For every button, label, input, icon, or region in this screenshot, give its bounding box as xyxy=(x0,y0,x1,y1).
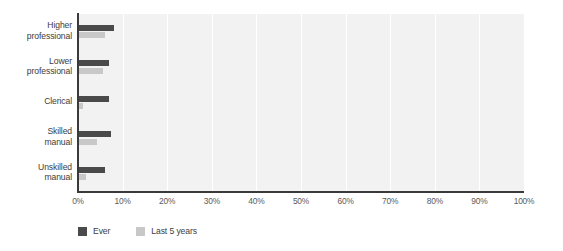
bar-ever[interactable] xyxy=(78,60,109,66)
plot-area xyxy=(78,14,524,191)
x-axis-tick-label: 20% xyxy=(159,196,175,207)
x-axis-tick-label: 60% xyxy=(338,196,354,207)
y-axis-label-skilled-manual: Skilledmanual xyxy=(0,126,72,147)
legend-label: Ever xyxy=(93,226,110,236)
y-axis-label-line: Clerical xyxy=(0,96,72,107)
y-axis-label-line: Lower xyxy=(0,56,72,67)
legend-item-ever[interactable]: Ever xyxy=(78,226,110,236)
x-axis-tick-label: 90% xyxy=(471,196,487,207)
x-axis-tick-labels: 0%10%20%30%40%50%60%70%80%90%100% xyxy=(0,196,563,210)
y-axis-line xyxy=(77,13,79,192)
bar-last-5-years[interactable] xyxy=(78,68,103,74)
x-axis-tick-label: 80% xyxy=(427,196,443,207)
bar-ever[interactable] xyxy=(78,167,105,173)
x-axis-tick-label: 30% xyxy=(204,196,220,207)
bar-last-5-years[interactable] xyxy=(78,139,97,145)
y-axis-label-unskilled-manual: Unskilledmanual xyxy=(0,162,72,183)
bar-group xyxy=(78,156,524,191)
bar-last-5-years[interactable] xyxy=(78,174,86,180)
bar-last-5-years[interactable] xyxy=(78,32,105,38)
bar-group xyxy=(78,85,524,120)
y-axis-label-line: professional xyxy=(0,66,72,77)
x-axis-tick-label: 10% xyxy=(115,196,131,207)
bar-group xyxy=(78,49,524,84)
y-axis-category-labels: HigherprofessionalLowerprofessionalCleri… xyxy=(0,14,72,191)
legend-swatch-icon xyxy=(78,227,87,236)
bar-chart: HigherprofessionalLowerprofessionalCleri… xyxy=(0,0,563,251)
legend-item-last-5-years[interactable]: Last 5 years xyxy=(136,226,197,236)
x-axis-tick-label: 70% xyxy=(382,196,398,207)
y-axis-label-line: Unskilled xyxy=(0,162,72,173)
bar-last-5-years[interactable] xyxy=(78,103,83,109)
y-axis-label-line: Higher xyxy=(0,20,72,31)
bar-group xyxy=(78,14,524,49)
x-axis-tick-label: 0% xyxy=(72,196,84,207)
x-axis-tick-label: 50% xyxy=(293,196,309,207)
y-axis-label-line: manual xyxy=(0,137,72,148)
chart-legend: EverLast 5 years xyxy=(78,224,223,238)
y-axis-label-higher-professional: Higherprofessional xyxy=(0,20,72,41)
y-axis-label-line: manual xyxy=(0,172,72,183)
legend-label: Last 5 years xyxy=(151,226,197,236)
y-axis-label-lower-professional: Lowerprofessional xyxy=(0,56,72,77)
bar-group xyxy=(78,120,524,155)
bar-ever[interactable] xyxy=(78,131,111,137)
x-axis-tick-label: 100% xyxy=(514,196,535,207)
y-axis-label-line: professional xyxy=(0,31,72,42)
bar-ever[interactable] xyxy=(78,96,109,102)
x-axis-line xyxy=(77,191,524,193)
y-axis-label-line: Skilled xyxy=(0,126,72,137)
legend-swatch-icon xyxy=(136,227,145,236)
x-axis-tick-label: 40% xyxy=(248,196,264,207)
y-axis-label-clerical: Clerical xyxy=(0,96,72,107)
bar-ever[interactable] xyxy=(78,25,114,31)
